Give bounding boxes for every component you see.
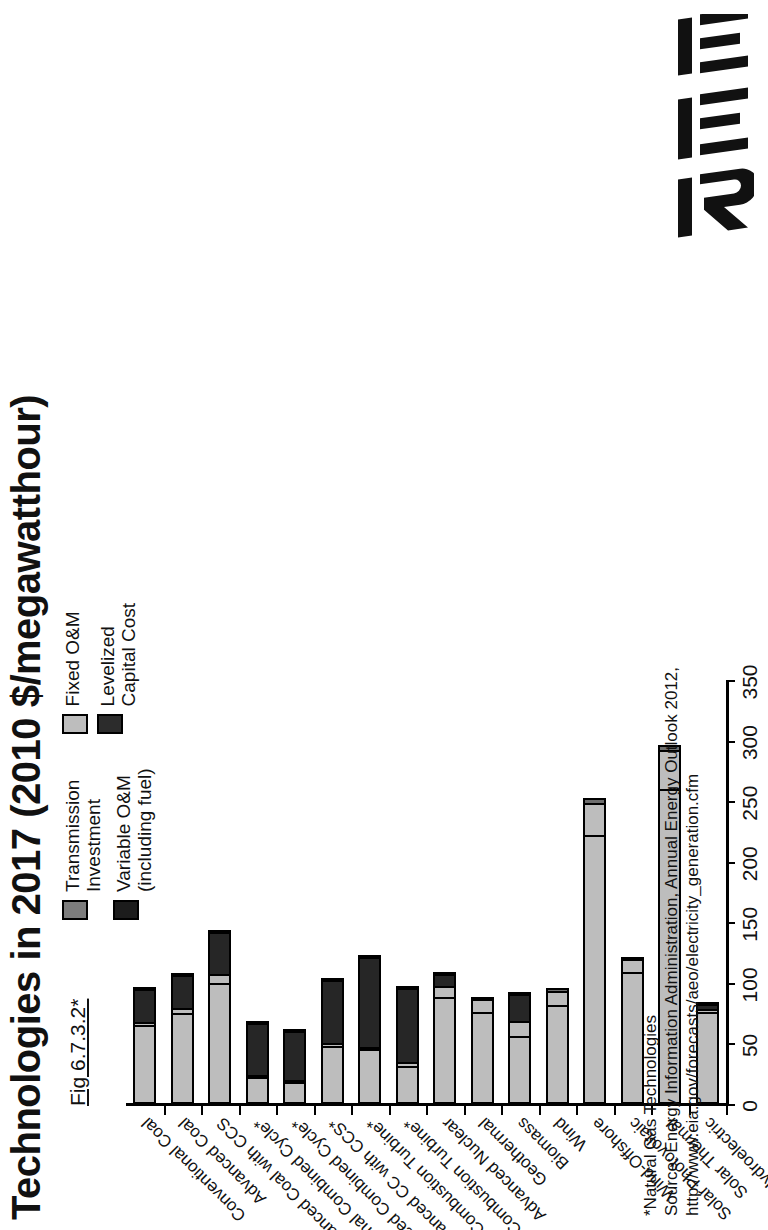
bar[interactable] xyxy=(546,988,569,1104)
footnote-line-2: Source: Energy Information Administratio… xyxy=(661,667,682,1216)
bar-segment xyxy=(208,983,231,1104)
legend-item-fixed-om: Fixed O&M xyxy=(62,603,88,735)
bar-segment xyxy=(583,798,606,805)
bar-segment xyxy=(471,999,494,1014)
bar-segment xyxy=(508,1021,531,1038)
axis-tick-label: 150 xyxy=(738,907,762,942)
bar-segment xyxy=(246,1077,269,1104)
plot-area: 050100150200250300350 Conventional CoalA… xyxy=(126,682,726,1106)
axis-tick-label: 350 xyxy=(738,664,762,699)
category-tick xyxy=(276,1106,278,1115)
bar[interactable] xyxy=(321,978,344,1104)
bar-segment xyxy=(246,1021,269,1025)
bar-segment xyxy=(583,835,606,1104)
axis-tick-label: 0 xyxy=(738,1100,762,1112)
axis-tick-label: 100 xyxy=(738,967,762,1002)
bar-segment xyxy=(321,978,344,982)
bar-segment xyxy=(546,1005,569,1104)
category-tick xyxy=(164,1106,166,1115)
bar-segment xyxy=(133,1025,156,1104)
bar-segment xyxy=(246,1023,269,1078)
bar-segment xyxy=(508,1036,531,1104)
category-tick xyxy=(539,1106,541,1115)
bar[interactable] xyxy=(508,992,531,1104)
bar-segment xyxy=(133,987,156,991)
axis-tick xyxy=(726,922,735,924)
bar-segment xyxy=(471,997,494,1001)
category-tick xyxy=(201,1106,203,1115)
bar[interactable] xyxy=(471,997,494,1104)
bar-segment xyxy=(208,932,231,976)
category-tick xyxy=(726,1106,728,1115)
category-tick xyxy=(239,1106,241,1115)
value-axis xyxy=(726,682,729,1106)
category-tick xyxy=(351,1106,353,1115)
bar[interactable] xyxy=(583,798,606,1104)
legend-item-label: Fixed O&M xyxy=(62,611,83,706)
footnote-line-1: *Natural Gas Technologies xyxy=(640,667,661,1216)
category-tick xyxy=(576,1106,578,1115)
bar-segment xyxy=(546,991,569,1007)
page-title: Technologies in 2017 (2010 $/megawatthou… xyxy=(4,395,49,1220)
axis-tick xyxy=(726,741,735,743)
bar[interactable] xyxy=(246,1021,269,1104)
axis-tick-label: 250 xyxy=(738,786,762,821)
chart-figure: Technologies in 2017 (2010 $/megawatthou… xyxy=(0,0,768,1230)
bar-segment xyxy=(508,992,531,996)
bar-segment xyxy=(546,988,569,993)
bar-segment xyxy=(321,980,344,1045)
axis-tick xyxy=(726,680,735,682)
footnote-line-3: http://www.eia.gov/forecasts/aeo/electri… xyxy=(682,667,703,1216)
figure-number: Fig 6.7.3.2* xyxy=(66,999,90,1106)
bar[interactable] xyxy=(396,986,419,1104)
category-tick xyxy=(614,1106,616,1115)
bar-segment xyxy=(583,803,606,837)
bar[interactable] xyxy=(358,955,381,1104)
bar-segment xyxy=(283,1082,306,1104)
category-tick xyxy=(426,1106,428,1115)
bar-segment xyxy=(321,1046,344,1104)
bar-segment xyxy=(508,994,531,1023)
bar[interactable] xyxy=(433,972,456,1104)
fixed-om-swatch-icon xyxy=(62,714,88,734)
axis-tick-label: 300 xyxy=(738,725,762,760)
bar-segment xyxy=(283,1029,306,1033)
axis-tick-label: 200 xyxy=(738,846,762,881)
bar-segment xyxy=(396,988,419,1064)
bar-segment xyxy=(171,973,194,977)
bar-segment xyxy=(471,1012,494,1104)
category-tick xyxy=(389,1106,391,1115)
bar-segment xyxy=(171,975,194,1010)
bar[interactable] xyxy=(283,1029,306,1104)
bar[interactable] xyxy=(133,987,156,1104)
category-tick xyxy=(464,1106,466,1115)
rotated-figure-wrapper: Technologies in 2017 (2010 $/megawatthou… xyxy=(0,0,768,1230)
bar-segment xyxy=(433,997,456,1104)
bar-segment xyxy=(133,989,156,1024)
legend-item-transmission: Transmission Investment xyxy=(62,768,104,920)
bar-segment xyxy=(171,1013,194,1104)
axis-tick-label: 50 xyxy=(738,1034,762,1057)
capital-cost-swatch-icon xyxy=(97,714,123,734)
bar-segment xyxy=(358,955,381,960)
ier-logo xyxy=(674,14,754,244)
axis-tick xyxy=(726,983,735,985)
bar-segment xyxy=(433,972,456,976)
bar[interactable] xyxy=(208,930,231,1104)
transmission-swatch-icon xyxy=(62,900,88,920)
footnote-block: *Natural Gas Technologies Source: Energy… xyxy=(640,667,703,1216)
category-tick xyxy=(314,1106,316,1115)
category-tick xyxy=(501,1106,503,1115)
bar-segment xyxy=(433,974,456,989)
bar-segment xyxy=(283,1031,306,1082)
bar-segment xyxy=(358,957,381,1049)
bar-segment xyxy=(396,1066,419,1104)
bar-segment xyxy=(358,1050,381,1105)
axis-tick xyxy=(726,801,735,803)
legend-item-label: Transmission Investment xyxy=(62,780,104,892)
axis-tick xyxy=(726,1043,735,1045)
axis-tick xyxy=(726,862,735,864)
bar-segment xyxy=(396,986,419,990)
bar[interactable] xyxy=(171,973,194,1104)
bar-segment xyxy=(208,930,231,934)
